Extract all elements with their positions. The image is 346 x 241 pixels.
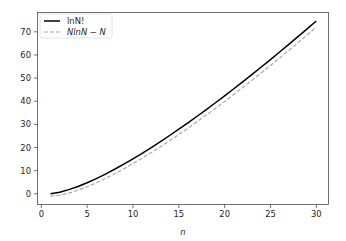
legend-label-0: lnN! [67,16,84,26]
series-ln-factorial [50,21,316,194]
x-tick-label: 25 [265,209,276,219]
y-tick-label: 60 [20,50,31,60]
series-stirling-approx [50,27,316,196]
y-tick-label: 50 [20,73,31,83]
y-tick-label: 40 [20,96,31,106]
x-tick-label: 0 [39,209,44,219]
x-axis: 051015202530 [39,205,322,220]
legend: lnN! NlnN − N [40,14,112,38]
x-tick-label: 10 [128,209,139,219]
series-layer [50,21,316,196]
y-tick-label: 70 [20,27,31,37]
y-axis: 010203040506070 [20,27,37,199]
x-tick-label: 30 [311,209,322,219]
axes-frame [38,13,329,205]
y-tick-label: 20 [20,143,31,153]
x-tick-label: 5 [84,209,89,219]
legend-label-1: NlnN − N [67,27,107,37]
x-tick-label: 20 [219,209,230,219]
y-tick-label: 10 [20,166,31,176]
line-chart: 051015202530 010203040506070 n lnN! NlnN… [0,0,346,241]
y-tick-label: 30 [20,119,31,129]
y-tick-label: 0 [26,189,31,199]
x-tick-label: 15 [173,209,184,219]
x-axis-label: n [180,227,185,237]
